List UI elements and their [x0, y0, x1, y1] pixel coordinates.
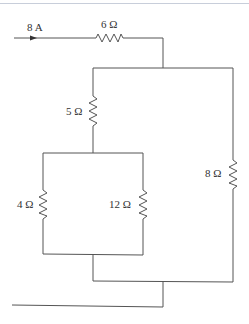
resistor-4-ohm-label: 4 Ω [17, 199, 33, 210]
resistor-6-ohm [96, 34, 123, 42]
circuit-diagram [0, 0, 249, 324]
resistor-12-ohm-label: 12 Ω [109, 199, 131, 210]
resistor-5-ohm [89, 96, 97, 126]
resistor-6-ohm-label: 6 Ω [101, 19, 117, 30]
resistor-8-ohm [229, 160, 237, 189]
resistor-4-ohm [39, 190, 47, 219]
resistor-12-ohm [139, 190, 147, 219]
output-wire [12, 305, 163, 307]
resistor-5-ohm-label: 5 Ω [66, 106, 82, 117]
source-current-label: 8 A [27, 22, 43, 33]
current-arrow-icon [30, 36, 37, 41]
resistor-8-ohm-label: 8 Ω [205, 168, 221, 179]
